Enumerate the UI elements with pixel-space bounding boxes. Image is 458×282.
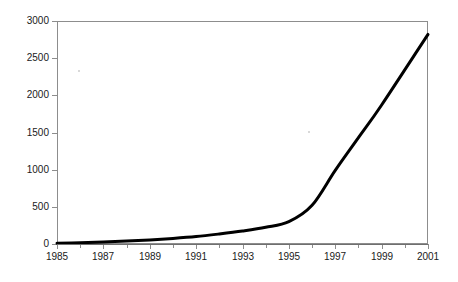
x-tick-mark — [428, 244, 429, 249]
y-tick-label: 0 — [43, 239, 49, 249]
x-tick-label: 1989 — [139, 252, 161, 262]
x-tick-label: 1997 — [324, 252, 346, 262]
x-tick-label: 1985 — [46, 252, 68, 262]
data-series-line — [57, 34, 428, 243]
y-tick-label: 500 — [32, 202, 49, 212]
x-tick-label: 1995 — [278, 252, 300, 262]
chart-container: 300025002000150010005000 198519871989199… — [0, 0, 458, 282]
x-tick-label: 1991 — [185, 252, 207, 262]
y-tick-label: 1500 — [27, 128, 49, 138]
x-tick-label: 1987 — [92, 252, 114, 262]
x-axis-baseline — [57, 244, 428, 245]
x-tick-label: 2001 — [417, 252, 439, 262]
plot-area — [57, 21, 428, 244]
x-tick-label: 1993 — [232, 252, 254, 262]
y-tick-label: 2000 — [27, 90, 49, 100]
y-tick-label: 2500 — [27, 53, 49, 63]
x-tick-label: 1999 — [371, 252, 393, 262]
y-tick-label: 1000 — [27, 165, 49, 175]
y-tick-label: 3000 — [27, 16, 49, 26]
